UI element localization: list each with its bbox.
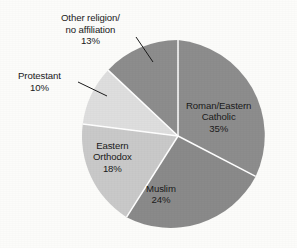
slice-value-other-religion: 13% xyxy=(61,35,120,47)
pie-chart-svg xyxy=(0,0,297,248)
slice-label-line1: Other religion/ xyxy=(61,12,120,24)
slice-label-line1: Muslim xyxy=(146,183,176,194)
slice-label-line1: Protestant xyxy=(18,70,61,82)
slice-value-eastern-orthodox: 18% xyxy=(93,163,132,174)
slice-value-muslim: 24% xyxy=(146,194,176,205)
slice-value-roman-eastern-catholic: 35% xyxy=(186,123,251,134)
slice-label-muslim: Muslim 24% xyxy=(146,183,176,206)
slice-value-protestant: 10% xyxy=(18,82,61,94)
slice-label-line2: no affiliation xyxy=(61,24,120,36)
slice-label-line1: Roman/Eastern xyxy=(186,100,251,111)
slice-label-line1: Eastern xyxy=(93,140,132,151)
slice-label-protestant: Protestant 10% xyxy=(18,70,61,93)
slice-label-other-religion: Other religion/ no affiliation 13% xyxy=(61,12,120,47)
slice-label-line2: Catholic xyxy=(186,111,251,122)
slice-label-line2: Orthodox xyxy=(93,151,132,162)
slice-label-eastern-orthodox: Eastern Orthodox 18% xyxy=(93,140,132,174)
slice-label-roman-eastern-catholic: Roman/Eastern Catholic 35% xyxy=(186,100,251,134)
pie-chart-figure: Roman/Eastern Catholic 35% Muslim 24% Ea… xyxy=(0,0,297,248)
